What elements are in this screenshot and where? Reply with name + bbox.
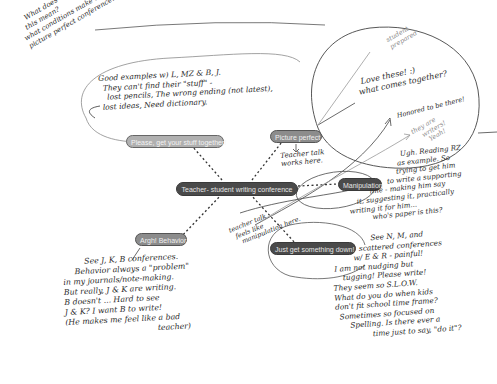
mind-map-canvas: Teacher- student writing conference Plea… [0,0,497,384]
connector-stuff [192,146,222,180]
connector-picture [252,142,282,180]
connector-manipulation [298,184,338,186]
annotation-down-note: See N, M, and scattered conferences w/ E… [330,227,462,341]
branch-node-behavior[interactable]: Argh! Behavior [135,233,187,246]
branch-node-stuff[interactable]: Please, get your stuff together! [126,135,224,148]
annotation-manipulation-note: Ugh. Reading RZ as example. So trying to… [344,144,468,225]
central-node[interactable]: Teacher- student writing conference [176,182,298,196]
branch-node-picture[interactable]: Picture perfect [270,130,322,143]
pen-stroke-top [95,22,325,30]
annotation-behavior-note: See J, K, B conferences. Behavior always… [62,251,192,338]
connector-behavior [180,194,222,238]
